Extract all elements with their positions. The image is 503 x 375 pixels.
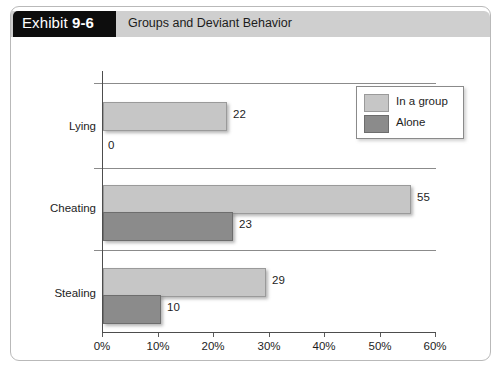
x-tick-40 xyxy=(324,333,325,337)
category-label-cheating: Cheating xyxy=(16,202,96,214)
bar-lying-in-a-group xyxy=(103,102,227,131)
x-axis-label-50: 50% xyxy=(360,340,400,352)
legend-label-alone: Alone xyxy=(396,116,425,128)
bar-value-stealing-in-a-group: 29 xyxy=(272,274,285,286)
x-tick-50 xyxy=(380,333,381,337)
x-axis-label-10: 10% xyxy=(138,340,178,352)
x-axis-label-40: 40% xyxy=(304,340,344,352)
legend-swatch-in-a-group-icon xyxy=(364,94,389,112)
gridline-lying-cheating xyxy=(94,168,436,169)
category-label-stealing: Stealing xyxy=(16,287,96,299)
chart-legend: In a group Alone xyxy=(356,86,464,139)
exhibit-badge-text: Exhibit 9-6 xyxy=(22,14,94,31)
exhibit-badge-word: Exhibit xyxy=(22,14,72,31)
gridline-cheating-stealing xyxy=(94,250,436,251)
x-tick-20 xyxy=(213,333,214,337)
x-axis-label-20: 20% xyxy=(193,340,233,352)
x-tick-0 xyxy=(102,333,103,337)
bar-cheating-alone xyxy=(103,212,233,241)
gridline-top xyxy=(94,83,436,84)
legend-label-in-a-group: In a group xyxy=(396,95,448,107)
x-axis-label-30: 30% xyxy=(249,340,289,352)
bar-value-cheating-alone: 23 xyxy=(239,218,252,230)
exhibit-badge-number: 9-6 xyxy=(72,14,94,31)
x-tick-30 xyxy=(269,333,270,337)
category-label-lying: Lying xyxy=(16,120,96,132)
legend-swatch-alone-icon xyxy=(364,115,389,133)
exhibit-number-badge: Exhibit 9-6 xyxy=(13,11,116,37)
bar-value-stealing-alone: 10 xyxy=(167,301,180,313)
bar-stealing-alone xyxy=(103,295,161,324)
x-tick-10 xyxy=(158,333,159,337)
bar-value-lying-in-a-group: 22 xyxy=(233,108,246,120)
x-tick-60 xyxy=(435,333,436,337)
exhibit-title: Groups and Deviant Behavior xyxy=(128,16,292,30)
exhibit-header: Exhibit 9-6 Groups and Deviant Behavior xyxy=(11,11,490,37)
bar-value-cheating-in-a-group: 55 xyxy=(417,191,430,203)
x-axis-label-0: 0% xyxy=(82,340,122,352)
chart-plot-area: Lying Cheating Stealing 22 0 55 23 29 10… xyxy=(11,39,490,360)
bar-value-lying-alone: 0 xyxy=(108,139,114,151)
bar-cheating-in-a-group xyxy=(103,185,411,214)
bar-stealing-in-a-group xyxy=(103,268,266,297)
x-axis-label-60: 60% xyxy=(415,340,455,352)
exhibit-frame: Exhibit 9-6 Groups and Deviant Behavior … xyxy=(10,6,491,361)
